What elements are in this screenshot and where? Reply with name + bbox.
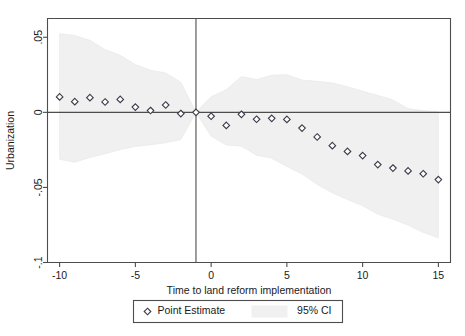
x-tick-label: 0 bbox=[208, 269, 214, 281]
x-tick-label: -10 bbox=[52, 269, 67, 281]
y-axis-title: Urbanization bbox=[4, 111, 16, 170]
legend-ci-label: 95% CI bbox=[297, 304, 331, 316]
chart-legend: Point Estimate 95% CI bbox=[134, 301, 343, 323]
event-study-chart: -10-5051015 .050-.05-.1 Time to land ref… bbox=[0, 0, 465, 336]
x-tick-label: 15 bbox=[433, 269, 445, 281]
legend-ci-swatch bbox=[252, 306, 288, 318]
chart-figure: -10-5051015 .050-.05-.1 Time to land ref… bbox=[0, 0, 465, 336]
y-tick-label: -.05 bbox=[32, 178, 44, 196]
x-axis-title: Time to land reform implementation bbox=[167, 284, 332, 296]
y-tick-label: .05 bbox=[32, 30, 44, 45]
y-tick-label: -.1 bbox=[32, 256, 44, 268]
x-tick-label: -5 bbox=[131, 269, 140, 281]
x-tick-label: 10 bbox=[357, 269, 369, 281]
y-tick-label: 0 bbox=[32, 109, 44, 115]
x-tick-label: 5 bbox=[284, 269, 290, 281]
legend-point-estimate-label: Point Estimate bbox=[158, 304, 226, 316]
